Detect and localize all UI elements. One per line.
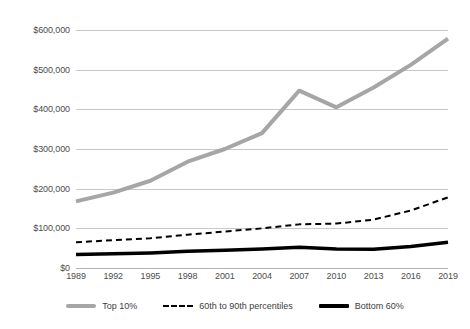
- x-axis-tick-label: 2019: [438, 271, 458, 281]
- x-axis-tick-label: 2004: [252, 271, 272, 281]
- dashed-black-line-swatch: [163, 302, 193, 311]
- solid-black-line-swatch: [319, 302, 349, 311]
- series-line: [76, 39, 448, 202]
- series-line: [76, 242, 448, 254]
- y-axis-tick-label: $0: [2, 263, 70, 273]
- plot-area: [76, 30, 448, 268]
- x-axis-tick-label: 1995: [141, 271, 161, 281]
- legend-item-label: 60th to 90th percentiles: [199, 301, 293, 311]
- x-axis-tick-label: 1989: [66, 271, 86, 281]
- x-axis-tick-label: 2010: [327, 271, 347, 281]
- y-axis-tick-label: $100,000: [2, 223, 70, 233]
- series-line: [76, 197, 448, 242]
- legend-item[interactable]: Top 10%: [66, 301, 137, 311]
- x-axis-tick-label: 1992: [103, 271, 123, 281]
- legend-item-label: Top 10%: [102, 301, 137, 311]
- y-axis-tick-label: $600,000: [2, 25, 70, 35]
- x-axis-tick-label: 2013: [364, 271, 384, 281]
- y-axis-tick-label: $200,000: [2, 184, 70, 194]
- x-axis-tick-label: 1998: [178, 271, 198, 281]
- legend-item[interactable]: Bottom 60%: [319, 301, 404, 311]
- y-axis-tick-label: $500,000: [2, 65, 70, 75]
- solid-gray-line-swatch: [66, 302, 96, 311]
- y-axis-tick-label: $300,000: [2, 144, 70, 154]
- legend-item[interactable]: 60th to 90th percentiles: [163, 301, 293, 311]
- legend-item-label: Bottom 60%: [355, 301, 404, 311]
- y-axis-label-group: $0$100,000$200,000$300,000$400,000$500,0…: [0, 0, 70, 329]
- x-axis-tick-label: 2007: [289, 271, 309, 281]
- y-axis-tick-label: $400,000: [2, 104, 70, 114]
- chart-legend: Top 10%60th to 90th percentilesBottom 60…: [0, 296, 470, 316]
- x-axis-tick-label: 2001: [215, 271, 235, 281]
- x-axis-tick-label: 2016: [401, 271, 421, 281]
- chart-container: Average Family Wealth by Percentile, 198…: [0, 0, 470, 329]
- series-group: [76, 30, 448, 268]
- gridline: [76, 268, 448, 269]
- x-axis-label-group: 1989199219951998200120042007201020132016…: [76, 271, 448, 285]
